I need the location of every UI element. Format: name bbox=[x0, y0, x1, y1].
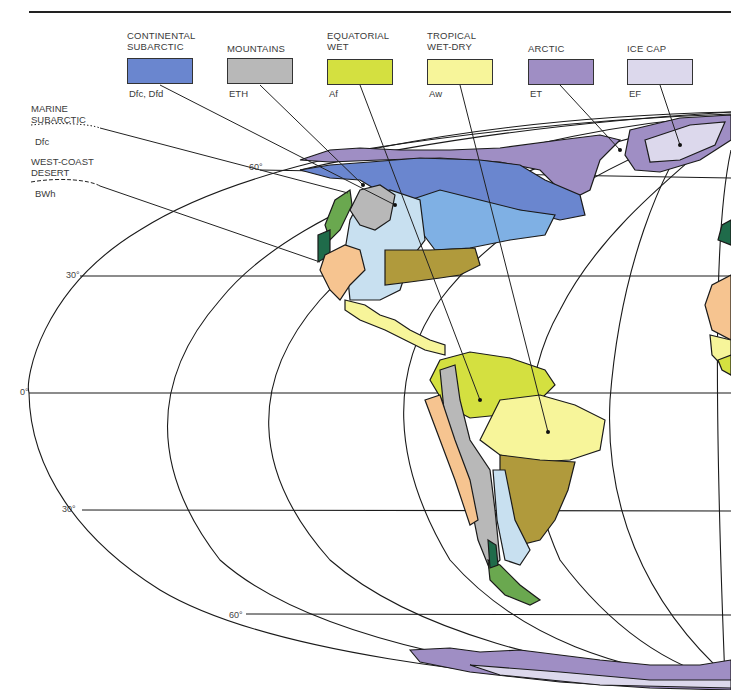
region-marine-sa bbox=[488, 560, 540, 605]
south-america bbox=[425, 352, 605, 605]
region-aw-sa bbox=[480, 395, 605, 462]
africa-edge bbox=[705, 220, 731, 375]
north-america bbox=[300, 135, 620, 355]
region-central-america bbox=[345, 300, 445, 355]
region-humid-subtropical bbox=[385, 248, 480, 285]
climate-map bbox=[0, 0, 731, 690]
antarctica bbox=[410, 648, 731, 690]
greenland bbox=[625, 115, 731, 172]
